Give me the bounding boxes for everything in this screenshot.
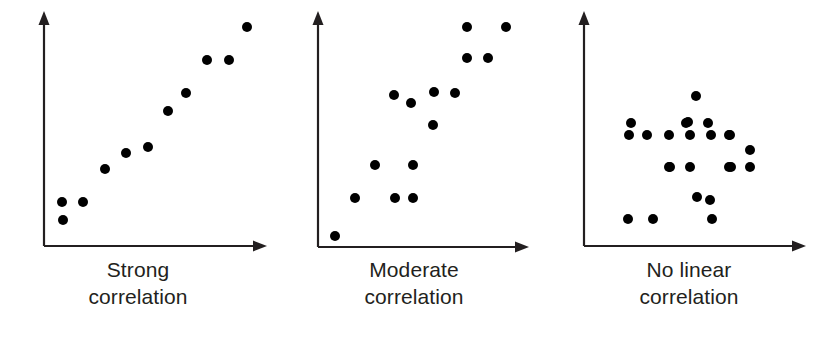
data-point: [370, 160, 380, 170]
data-point: [57, 197, 67, 207]
data-point: [681, 118, 691, 128]
x-axis-arrowhead-icon: [792, 241, 806, 252]
data-point: [703, 118, 713, 128]
data-points-no-linear: [623, 91, 755, 224]
data-point: [626, 118, 636, 128]
scatter-svg-no-linear: [551, 0, 827, 258]
data-point: [408, 160, 418, 170]
data-point: [100, 164, 110, 174]
data-point: [705, 195, 715, 205]
data-point: [685, 130, 695, 140]
data-point: [224, 55, 234, 65]
data-point: [202, 55, 212, 65]
data-point: [462, 22, 472, 32]
panel-strong-correlation: Strong correlation: [0, 0, 276, 345]
scatter-svg-strong: [0, 0, 276, 258]
data-points-strong: [57, 22, 252, 225]
caption-strong-correlation: Strong correlation: [0, 256, 276, 310]
data-point: [624, 130, 634, 140]
data-point: [725, 130, 735, 140]
data-point: [706, 130, 716, 140]
data-points-moderate: [330, 22, 511, 241]
data-point: [78, 197, 88, 207]
data-point: [389, 90, 399, 100]
scatterplot-no-linear: [551, 0, 827, 258]
caption-no-linear-correlation: No linear correlation: [551, 256, 827, 310]
data-point: [121, 148, 131, 158]
y-axis-arrowhead-icon: [579, 11, 590, 25]
data-point: [665, 162, 675, 172]
data-point: [242, 22, 252, 32]
data-point: [691, 91, 701, 101]
data-point: [483, 53, 493, 63]
data-point: [406, 98, 416, 108]
data-point: [664, 130, 674, 140]
correlation-figure: Strong correlation Moderate correlation: [0, 0, 827, 345]
axes-moderate: [313, 11, 530, 253]
data-point: [623, 214, 633, 224]
data-point: [685, 162, 695, 172]
caption-moderate-correlation: Moderate correlation: [276, 256, 552, 310]
data-point: [462, 53, 472, 63]
panel-moderate-correlation: Moderate correlation: [276, 0, 552, 345]
data-point: [707, 214, 717, 224]
x-axis-arrowhead-icon: [515, 242, 529, 253]
data-point: [181, 88, 191, 98]
scatter-svg-moderate: [276, 0, 552, 258]
panel-no-linear-correlation: No linear correlation: [551, 0, 827, 345]
x-axis-arrowhead-icon: [253, 241, 267, 252]
y-axis-arrowhead-icon: [313, 11, 324, 25]
data-point: [330, 231, 340, 241]
data-point: [428, 120, 438, 130]
y-axis-arrowhead-icon: [39, 11, 50, 25]
scatterplot-moderate: [276, 0, 552, 258]
data-point: [745, 145, 755, 155]
data-point: [58, 215, 68, 225]
scatterplot-strong: [0, 0, 276, 258]
data-point: [429, 87, 439, 97]
data-point: [350, 193, 360, 203]
data-point: [692, 192, 702, 202]
data-point: [648, 214, 658, 224]
data-point: [408, 193, 418, 203]
data-point: [163, 106, 173, 116]
data-point: [390, 193, 400, 203]
data-point: [450, 88, 460, 98]
data-point: [726, 162, 736, 172]
data-point: [642, 130, 652, 140]
data-point: [501, 22, 511, 32]
axes-strong: [39, 11, 268, 252]
data-point: [745, 162, 755, 172]
data-point: [143, 142, 153, 152]
